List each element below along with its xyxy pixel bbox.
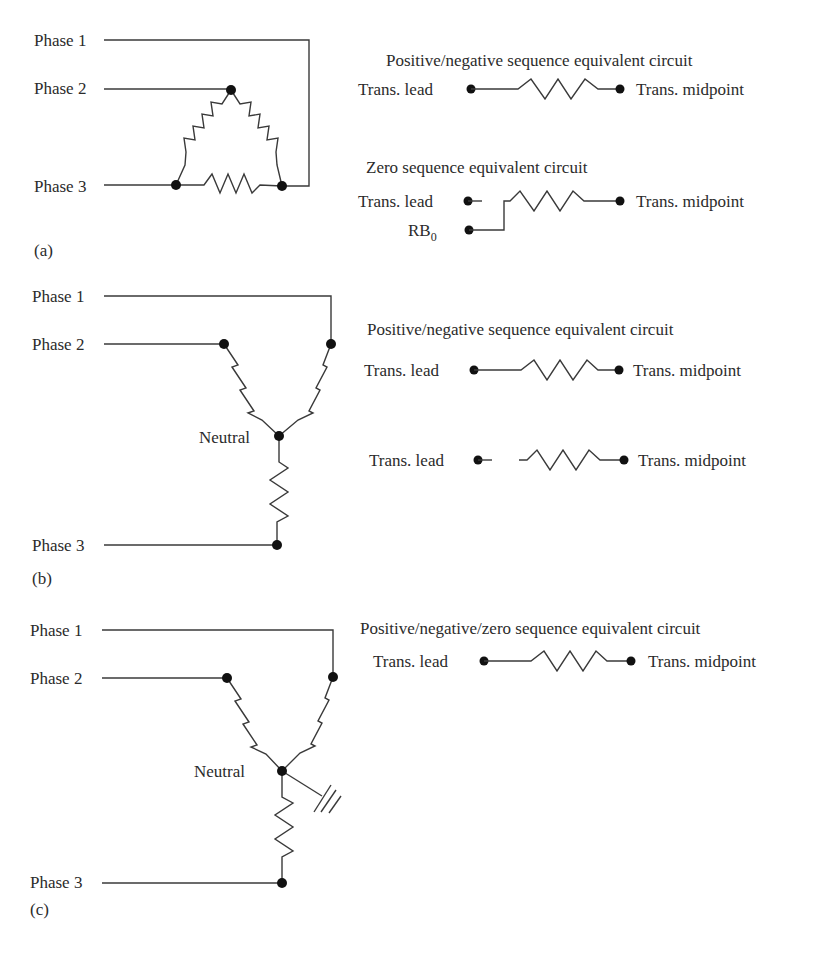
resistor [519, 450, 624, 470]
phase-1-label: Phase 1 [34, 31, 86, 50]
trans-midpoint-label: Trans. midpoint [636, 80, 744, 99]
trans-midpoint-node [627, 657, 636, 666]
panel-b: Phase 1 Phase 2 Phase 3 Neutral (b) Posi… [32, 287, 746, 588]
trans-midpoint-node [616, 85, 625, 94]
trans-midpoint-node [620, 456, 629, 465]
trans-midpoint-label: Trans. midpoint [636, 192, 744, 211]
trans-lead-label: Trans. lead [358, 80, 433, 99]
delta-node-top [226, 85, 236, 95]
phase-1-wire [102, 630, 333, 677]
equivalent-circuit: Positive/negative sequence equivalent ci… [358, 51, 744, 99]
circuit-title: Positive/negative sequence equivalent ci… [367, 320, 674, 339]
circuit-title: Zero sequence equivalent circuit [366, 158, 588, 177]
neutral-node [277, 766, 287, 776]
trans-lead-label: Trans. lead [369, 451, 444, 470]
panel-label: (b) [32, 569, 52, 588]
resistor [474, 360, 619, 380]
phase-3-label: Phase 3 [34, 177, 86, 196]
delta-resistor-left [176, 90, 231, 185]
equivalent-circuit-zero-sequence: Trans. lead Trans. midpoint [369, 450, 746, 470]
wye-resistor-left [224, 344, 279, 436]
panel-a: Phase 1 Phase 2 Phase 3 (a) Positive/neg… [34, 31, 744, 260]
trans-midpoint-label: Trans. midpoint [648, 652, 756, 671]
neutral-resistor [270, 436, 288, 545]
wye-resistor-left [227, 678, 282, 771]
equivalent-circuit: Positive/negative/zero sequence equivale… [360, 619, 756, 671]
resistor [484, 651, 631, 671]
delta-node-right [277, 181, 287, 191]
trans-lead-label: Trans. lead [364, 361, 439, 380]
neutral-label: Neutral [199, 428, 250, 447]
wye-resistor-right [279, 344, 331, 436]
wye-resistor-right [282, 677, 333, 771]
trans-midpoint-label: Trans. midpoint [638, 451, 746, 470]
phase-1-wire [104, 40, 309, 186]
delta-resistor-right [231, 90, 282, 186]
transformer-connection-diagram: Phase 1 Phase 2 Phase 3 (a) Positive/neg… [0, 0, 819, 957]
neutral-resistor [275, 771, 293, 883]
wye-node-phase-1 [326, 339, 336, 349]
phase-1-wire [104, 296, 331, 344]
trans-midpoint-node [615, 366, 624, 375]
wye-node-phase-3 [277, 878, 287, 888]
phase-1-label: Phase 1 [30, 621, 82, 640]
ground-icon [282, 771, 341, 813]
neutral-node [274, 431, 284, 441]
resistor [471, 79, 620, 99]
delta-node-left [171, 180, 181, 190]
resistor [469, 191, 620, 230]
phase-2-label: Phase 2 [34, 79, 86, 98]
delta-resistor-bottom [176, 174, 282, 193]
equivalent-circuit: Positive/negative sequence equivalent ci… [364, 320, 741, 380]
equivalent-circuit-zero-sequence: Zero sequence equivalent circuit Trans. … [358, 158, 744, 244]
circuit-title: Positive/negative/zero sequence equivale… [360, 619, 701, 638]
phase-2-label: Phase 2 [30, 669, 82, 688]
trans-midpoint-label: Trans. midpoint [633, 361, 741, 380]
panel-c: Phase 1 Phase 2 Phase 3 Neutral (c) Posi… [30, 619, 756, 919]
wye-node-phase-2 [219, 339, 229, 349]
phase-3-label: Phase 3 [30, 873, 82, 892]
trans-midpoint-node [616, 197, 625, 206]
trans-lead-label: Trans. lead [358, 192, 433, 211]
panel-label: (a) [34, 241, 53, 260]
circuit-title: Positive/negative sequence equivalent ci… [386, 51, 693, 70]
trans-lead-label: Trans. lead [373, 652, 448, 671]
phase-1-label: Phase 1 [32, 287, 84, 306]
neutral-label: Neutral [194, 762, 245, 781]
wye-node-phase-3 [272, 540, 282, 550]
wye-node-phase-1 [328, 672, 338, 682]
reference-bus-label: RB0 [408, 221, 437, 244]
panel-label: (c) [30, 900, 49, 919]
phase-2-label: Phase 2 [32, 335, 84, 354]
phase-3-label: Phase 3 [32, 536, 84, 555]
wye-node-phase-2 [222, 673, 232, 683]
